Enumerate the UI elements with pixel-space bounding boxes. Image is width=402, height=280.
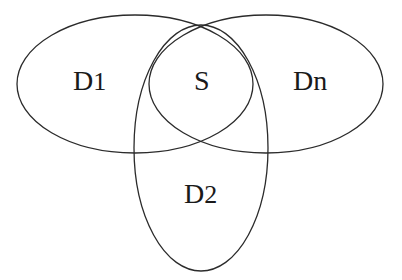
label-d2: D2 [184, 178, 217, 209]
set-dn-ellipse [149, 15, 383, 153]
label-d1: D1 [73, 65, 106, 96]
label-dn: Dn [293, 65, 327, 96]
label-s-intersection: S [194, 65, 210, 96]
venn-diagram: D1 S Dn D2 [0, 0, 402, 280]
set-d2-ellipse [134, 25, 268, 271]
venn-diagram-svg: D1 S Dn D2 [0, 0, 402, 280]
